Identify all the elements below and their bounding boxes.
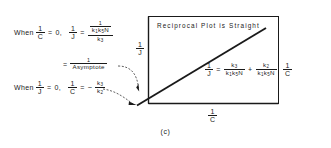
xintercept-leader-line <box>103 89 133 104</box>
x-axis-label: 1 C <box>208 107 217 123</box>
asymptote-leader-arrowhead <box>136 84 139 92</box>
intercept-denominator: k1k5N <box>224 70 245 77</box>
asymptote-leader-line <box>118 66 139 88</box>
slope-term-fraction: k2 k1k5N <box>256 62 277 78</box>
figure-reciprocal-plot: When 1 C = 0, 1 J = 1 k1k5 <box>0 0 331 148</box>
equation-lhs-fraction: 1 J <box>205 62 213 77</box>
intercept-term-fraction: k3 k1k5N <box>224 62 245 78</box>
plot-title: Reciprocal Plot is Straight <box>157 22 260 29</box>
x-axis-label-fraction: 1 C <box>208 108 217 123</box>
figure-caption: (c) <box>0 128 331 135</box>
y-axis-label: 1 J <box>136 40 144 56</box>
slope-denominator: k1k5N <box>256 70 277 77</box>
line-equation: 1 J = k3 k1k5N + k2 k1k5N 1 <box>205 62 292 78</box>
xintercept-leader-arrowhead <box>129 101 137 105</box>
y-axis-label-fraction: 1 J <box>136 41 144 56</box>
equals-sign-equation: = <box>215 66 221 73</box>
intercept-numerator: k3 <box>229 62 239 69</box>
variable-term-fraction: 1 C <box>283 62 292 77</box>
plus-sign: + <box>247 66 253 73</box>
slope-numerator: k2 <box>261 62 271 69</box>
